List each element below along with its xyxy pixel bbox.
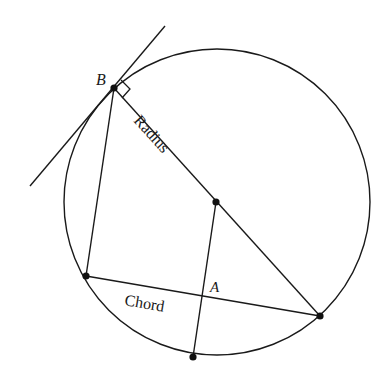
right-angle-marker bbox=[121, 80, 130, 98]
point-b bbox=[110, 84, 117, 91]
point-diameter-end bbox=[316, 312, 323, 319]
geometry-diagram: B A Radius Chord bbox=[0, 0, 386, 384]
point-bottom bbox=[189, 353, 196, 360]
point-center bbox=[212, 198, 219, 205]
label-point-a: A bbox=[209, 279, 220, 295]
label-radius: Radius bbox=[131, 112, 173, 156]
chord-line bbox=[86, 276, 320, 316]
label-point-b: B bbox=[96, 71, 106, 88]
point-chord-left bbox=[82, 272, 89, 279]
label-chord: Chord bbox=[123, 291, 165, 314]
tangent-line bbox=[30, 26, 165, 186]
